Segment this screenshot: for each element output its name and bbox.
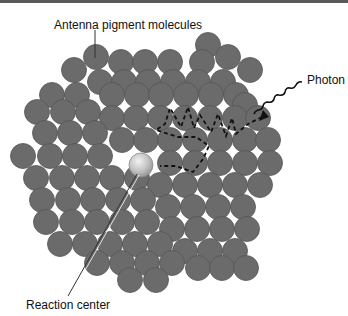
antenna-pigment-molecule <box>62 58 87 83</box>
antenna-pigment-molecule <box>231 195 256 220</box>
antenna-pigment-molecule <box>210 217 235 242</box>
antenna-pigment-molecule <box>223 173 248 198</box>
antenna-pigment-molecule <box>185 217 210 242</box>
photon-wave-icon <box>254 82 302 114</box>
antenna-pigment-molecule <box>131 188 156 213</box>
antenna-pigment-molecule <box>24 166 49 191</box>
antenna-pigment-molecule <box>158 151 183 176</box>
antenna-pigment-molecule <box>100 166 125 191</box>
antenna-pigment-molecule <box>60 210 85 235</box>
diagram-stage: Antenna pigment molecules Photon Reactio… <box>0 0 348 316</box>
antenna-pigment-molecule <box>33 121 58 146</box>
antenna-pigment-molecule <box>181 195 206 220</box>
antenna-pigment-molecule <box>248 173 273 198</box>
antenna-pigment-molecule <box>100 83 125 108</box>
antenna-pigment-molecule <box>144 268 169 293</box>
antenna-pigment-molecule <box>238 58 263 83</box>
antenna-pigment-molecule <box>234 256 259 281</box>
antenna-pigment-molecule <box>30 188 55 213</box>
reaction-center-label: Reaction center <box>26 298 110 312</box>
antenna-pigment-molecule <box>75 166 100 191</box>
antenna-pigment-molecule <box>85 251 110 276</box>
antenna-pigment-molecule <box>134 128 159 153</box>
antenna-pigment-molecule <box>174 83 199 108</box>
antenna-pigment-molecule <box>233 151 258 176</box>
antenna-pigment-molecule <box>56 188 81 213</box>
antenna-pigment-molecule <box>50 166 75 191</box>
antenna-pigment-molecule <box>83 121 108 146</box>
antenna-pigment-molecule <box>48 232 73 257</box>
antenna-pigment-molecule <box>118 268 143 293</box>
antenna-complex-diagram <box>0 0 348 316</box>
antenna-pigment-molecule <box>85 210 110 235</box>
antenna-pigment-molecule <box>34 210 59 235</box>
antenna-pigment-molecule <box>210 256 235 281</box>
antenna-pigment-molecule <box>199 83 224 108</box>
antenna-pigment-molecule <box>208 151 233 176</box>
antenna-pigment-molecule <box>38 144 63 169</box>
antenna-pigment-molecule <box>258 151 283 176</box>
antenna-pigment-molecule <box>198 173 223 198</box>
antenna-pigment-molecule <box>125 83 150 108</box>
antenna-pigment-molecule <box>206 195 231 220</box>
antenna-pigment-molecule <box>183 128 208 153</box>
antenna-pigment-molecule <box>216 45 241 70</box>
antenna-pigment-molecule <box>183 151 208 176</box>
antenna-pigment-molecule <box>186 256 211 281</box>
antenna-pigment-molecule <box>81 188 106 213</box>
antenna-pigment-molecule <box>58 121 83 146</box>
antenna-pigment-molecule <box>233 128 258 153</box>
antenna-pigment-molecule <box>124 106 149 131</box>
antenna-pigment-molecule <box>135 210 160 235</box>
antenna-pigment-molecule <box>110 128 135 153</box>
antenna-pigment-molecule <box>156 195 181 220</box>
antenna-pigment-molecule <box>84 45 109 70</box>
antenna-pigment-molecule <box>235 217 260 242</box>
reaction-center-molecule <box>129 153 153 177</box>
antenna-pigment-molecule <box>256 128 281 153</box>
antenna-label: Antenna pigment molecules <box>54 18 202 32</box>
photon-label: Photon <box>307 73 345 87</box>
antenna-pigment-molecule <box>149 83 174 108</box>
antenna-pigment-molecule <box>110 210 135 235</box>
antenna-pigment-molecule <box>11 144 36 169</box>
antenna-pigment-molecule <box>88 144 113 169</box>
antenna-pigment-molecule <box>173 173 198 198</box>
antenna-pigment-molecule <box>63 144 88 169</box>
